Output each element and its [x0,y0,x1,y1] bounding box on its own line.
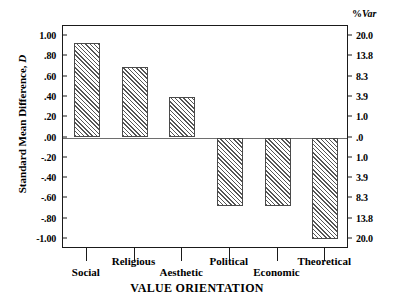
zero-baseline [63,138,347,139]
y-axis-tick-label: -.20 [41,151,56,162]
y-axis-tick-labels: 1.00.80.60.40.20.00-.20-.40-.60-.80-1.00 [24,25,56,248]
y-axis-tick-mark [62,75,67,76]
y-axis-tick-label: .00 [44,131,56,142]
y-axis-tick-mark [62,35,67,36]
secondary-y-axis-tick-mark [347,55,352,56]
y-axis-tick-mark [62,197,67,198]
y-axis-tick-label: -.60 [41,192,56,203]
secondary-y-axis-tick-label: .0 [356,131,363,142]
bar [265,138,291,207]
bar [312,138,338,239]
secondary-y-axis-tick-label: 3.9 [356,172,368,183]
bar [74,43,100,137]
percent-sign: % [352,8,362,19]
secondary-y-axis-tick-mark [347,237,352,238]
y-axis-tick-label: -.80 [41,212,56,223]
secondary-y-axis-tick-mark [347,35,352,36]
secondary-y-axis-tick-label: 13.8 [356,212,373,223]
secondary-y-axis-tick-label: 20.0 [356,30,373,41]
bar [169,97,195,138]
x-axis-title: VALUE ORIENTATION [0,281,394,296]
y-axis-tick-mark [62,116,67,117]
var-word: Var [362,8,376,19]
y-axis-tick-mark [62,237,67,238]
secondary-y-axis-tick-mark [347,177,352,178]
secondary-y-axis-tick-label: 1.0 [356,151,368,162]
y-axis-tick-label: .20 [44,111,56,122]
secondary-y-axis-tick-labels: 20.013.88.33.91.0.01.03.98.313.820.0 [356,25,394,248]
y-axis-tick-mark [62,95,67,96]
secondary-y-axis-tick-mark [347,116,352,117]
y-axis-tick-label: .40 [44,90,56,101]
x-axis-category-label: Aesthetic [159,266,202,278]
y-axis-tick-label: 1.00 [39,30,56,41]
chart-container: Standard Mean Difference, D %Var 1.00.80… [0,0,394,304]
plot-area [62,25,348,248]
y-axis-tick-label: -.40 [41,172,56,183]
y-axis-tick-mark [62,217,67,218]
bar [217,138,243,207]
secondary-y-axis-tick-label: 8.3 [356,192,368,203]
y-axis-tick-mark [62,156,67,157]
secondary-y-axis-tick-label: 13.8 [356,50,373,61]
y-axis-tick-label: .80 [44,50,56,61]
secondary-y-axis-tick-label: 20.0 [356,232,373,243]
y-axis-tick-mark [62,136,67,137]
secondary-y-axis-tick-label: 3.9 [356,90,368,101]
secondary-y-axis-tick-mark [347,136,352,137]
secondary-y-axis-tick-mark [347,75,352,76]
x-axis-category-label: Political [210,255,249,267]
y-axis-tick-mark [62,177,67,178]
x-axis-category-label: Economic [253,266,299,278]
secondary-y-axis-tick-mark [347,217,352,218]
x-axis-category-label: Religious [112,255,155,267]
x-axis-category-label: Social [72,266,100,278]
x-axis-category-label: Theoretical [297,255,351,267]
x-axis-tick-mark [181,248,182,261]
x-axis-tick-mark [86,248,87,261]
secondary-y-axis-tick-mark [347,197,352,198]
secondary-y-axis-tick-mark [347,156,352,157]
secondary-y-axis-tick-mark [347,95,352,96]
y-axis-tick-label: .60 [44,70,56,81]
secondary-y-axis-tick-label: 8.3 [356,70,368,81]
secondary-y-axis-title: %Var [352,8,376,19]
y-axis-tick-mark [62,55,67,56]
y-axis-tick-label: -1.00 [36,232,56,243]
bar [122,67,148,138]
secondary-y-axis-tick-label: 1.0 [356,111,368,122]
x-axis-tick-mark [277,248,278,261]
